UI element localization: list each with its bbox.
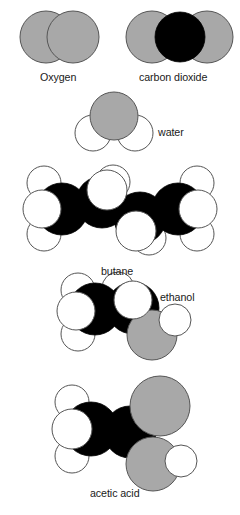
molecule-label-acetic-acid: acetic acid bbox=[90, 487, 140, 499]
atom-h bbox=[87, 170, 127, 210]
molecule-label-carbon-dioxide: carbon dioxide bbox=[139, 71, 207, 83]
molecule-butane bbox=[23, 165, 217, 255]
atom-c bbox=[155, 12, 205, 62]
molecule-label-oxygen: Oxygen bbox=[40, 71, 76, 83]
molecule-water bbox=[75, 92, 153, 151]
molecule-label-water: water bbox=[158, 126, 184, 138]
atom-h bbox=[159, 304, 191, 336]
molecule-ethanol bbox=[57, 272, 191, 360]
atom-h bbox=[114, 281, 152, 319]
molecule-oxygen bbox=[20, 11, 99, 63]
molecule-acetic-acid bbox=[52, 376, 197, 491]
molecular-models-figure: Oxygen carbon dioxide water butane ethan… bbox=[0, 0, 240, 515]
atom-h bbox=[57, 292, 95, 330]
atom-h bbox=[179, 190, 217, 228]
molecule-carbon-dioxide bbox=[126, 11, 233, 63]
atom-h bbox=[52, 409, 92, 449]
molecule-label-ethanol: ethanol bbox=[160, 291, 194, 303]
molecule-label-butane: butane bbox=[101, 265, 133, 277]
atom-h bbox=[23, 190, 61, 228]
atom-o bbox=[47, 11, 99, 63]
atom-o bbox=[130, 376, 190, 436]
atom-o bbox=[90, 92, 138, 140]
atom-h bbox=[116, 211, 156, 251]
atom-h bbox=[165, 445, 197, 477]
